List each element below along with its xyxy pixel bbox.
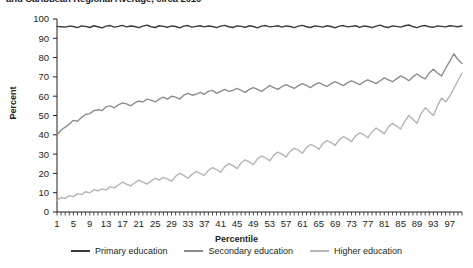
y-tick-label: 60 — [38, 91, 49, 102]
x-tick-label: 53 — [264, 218, 275, 229]
x-tick-label: 1 — [54, 218, 59, 229]
y-tick-label: 10 — [38, 187, 49, 198]
x-tick-label: 81 — [379, 218, 390, 229]
y-axis-tick-labels: 0102030405060708090100 — [33, 13, 49, 217]
y-tick-label: 20 — [38, 168, 49, 179]
x-tick-label: 41 — [215, 218, 226, 229]
x-tick-label: 45 — [232, 218, 243, 229]
y-tick-label: 50 — [38, 110, 49, 121]
x-tick-label: 85 — [395, 218, 406, 229]
x-tick-label: 69 — [330, 218, 341, 229]
y-tick-label: 30 — [38, 149, 49, 160]
chart-legend: Primary educationSecondary educationHigh… — [0, 246, 473, 256]
y-axis-ticks — [53, 19, 57, 212]
series-line-secondary-education — [57, 54, 462, 135]
x-axis-title: Percentile — [0, 234, 473, 244]
y-tick-label: 100 — [33, 13, 49, 24]
x-tick-label: 9 — [87, 218, 92, 229]
y-tick-label: 80 — [38, 52, 49, 63]
x-tick-label: 33 — [183, 218, 194, 229]
x-axis-ticks — [57, 212, 462, 216]
x-tick-label: 13 — [101, 218, 112, 229]
x-tick-label: 25 — [150, 218, 161, 229]
x-tick-label: 17 — [117, 218, 128, 229]
axis-lines — [57, 19, 462, 212]
x-tick-label: 61 — [297, 218, 308, 229]
data-series-lines — [57, 25, 462, 200]
y-tick-label: 70 — [38, 71, 49, 82]
legend-line-icon — [184, 250, 203, 252]
x-tick-label: 97 — [444, 218, 455, 229]
x-tick-label: 49 — [248, 218, 259, 229]
y-tick-label: 0 — [44, 206, 49, 217]
series-line-higher-education — [57, 73, 462, 200]
legend-label: Higher education — [334, 246, 402, 256]
x-tick-label: 65 — [314, 218, 325, 229]
x-axis-tick-labels: 1591317212529333741454953576165697377818… — [54, 218, 455, 229]
x-tick-label: 73 — [346, 218, 357, 229]
legend-line-icon — [71, 250, 90, 252]
x-tick-label: 29 — [166, 218, 177, 229]
series-line-primary-education — [57, 25, 462, 28]
legend-label: Secondary education — [208, 246, 293, 256]
x-tick-label: 21 — [134, 218, 145, 229]
legend-item-primary-education[interactable]: Primary education — [71, 246, 168, 256]
legend-label: Primary education — [95, 246, 168, 256]
x-tick-label: 93 — [428, 218, 439, 229]
x-tick-label: 89 — [412, 218, 423, 229]
legend-item-higher-education[interactable]: Higher education — [310, 246, 402, 256]
x-tick-label: 5 — [71, 218, 76, 229]
y-tick-label: 90 — [38, 33, 49, 44]
line-chart-plot: 0102030405060708090100 15913172125293337… — [0, 0, 473, 268]
x-tick-label: 77 — [363, 218, 374, 229]
y-axis-title: Percent — [8, 73, 18, 133]
y-tick-label: 40 — [38, 129, 49, 140]
x-tick-label: 57 — [281, 218, 292, 229]
x-tick-label: 37 — [199, 218, 210, 229]
legend-item-secondary-education[interactable]: Secondary education — [184, 246, 293, 256]
chart-figure: and Caribbean Regional Average, circa 20… — [0, 0, 473, 268]
legend-line-icon — [310, 250, 329, 252]
